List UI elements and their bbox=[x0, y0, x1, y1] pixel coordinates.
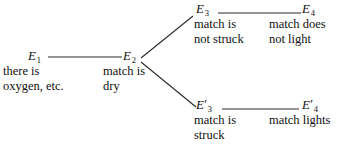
node-e3-prime: E′3 match is struck bbox=[194, 98, 236, 143]
event-tree-diagram: E1 there is oxygen, etc. E2 match is dry… bbox=[0, 0, 347, 152]
node-e3-prime-label: E′3 bbox=[196, 98, 236, 113]
node-e3-subscript: 3 bbox=[205, 8, 209, 18]
node-e4-prime-label: E′4 bbox=[302, 98, 330, 113]
node-e4-subscript: 4 bbox=[311, 8, 315, 18]
node-e3-prime-description: match is struck bbox=[194, 113, 236, 143]
node-e1-description: there is oxygen, etc. bbox=[3, 64, 64, 94]
node-e2: E2 match is dry bbox=[103, 49, 145, 94]
node-e2-description: match is dry bbox=[103, 64, 145, 94]
node-e3-prime-subscript: 3 bbox=[208, 104, 212, 114]
node-e3-prime-symbol: E bbox=[196, 97, 204, 112]
node-e4-description: match does not light bbox=[269, 17, 326, 47]
node-e3-prime-mark: ′ bbox=[204, 96, 207, 111]
node-e3: E3 match is not struck bbox=[194, 2, 244, 47]
node-e3-description: match is not struck bbox=[194, 17, 244, 47]
node-e1-label: E1 bbox=[28, 49, 64, 64]
node-e2-label: E2 bbox=[123, 49, 145, 64]
node-e2-symbol: E bbox=[123, 48, 131, 63]
node-e3-symbol: E bbox=[196, 1, 204, 16]
node-e4-label: E4 bbox=[302, 2, 326, 17]
node-e4-prime-symbol: E bbox=[302, 97, 310, 112]
node-e4-prime-subscript: 4 bbox=[314, 104, 318, 114]
node-e1-subscript: 1 bbox=[37, 55, 41, 65]
node-e1-symbol: E bbox=[28, 48, 36, 63]
node-e4: E4 match does not light bbox=[269, 2, 326, 47]
node-e3-label: E3 bbox=[196, 2, 244, 17]
node-e4-prime-description: match lights bbox=[269, 113, 330, 128]
node-e2-subscript: 2 bbox=[132, 55, 136, 65]
node-e4-symbol: E bbox=[302, 1, 310, 16]
node-e4-prime: E′4 match lights bbox=[269, 98, 330, 128]
node-e4-prime-mark: ′ bbox=[310, 96, 313, 111]
edge-e2-e3-prime bbox=[141, 62, 196, 107]
edge-e2-e3 bbox=[141, 16, 193, 58]
node-e1: E1 there is oxygen, etc. bbox=[3, 49, 64, 94]
